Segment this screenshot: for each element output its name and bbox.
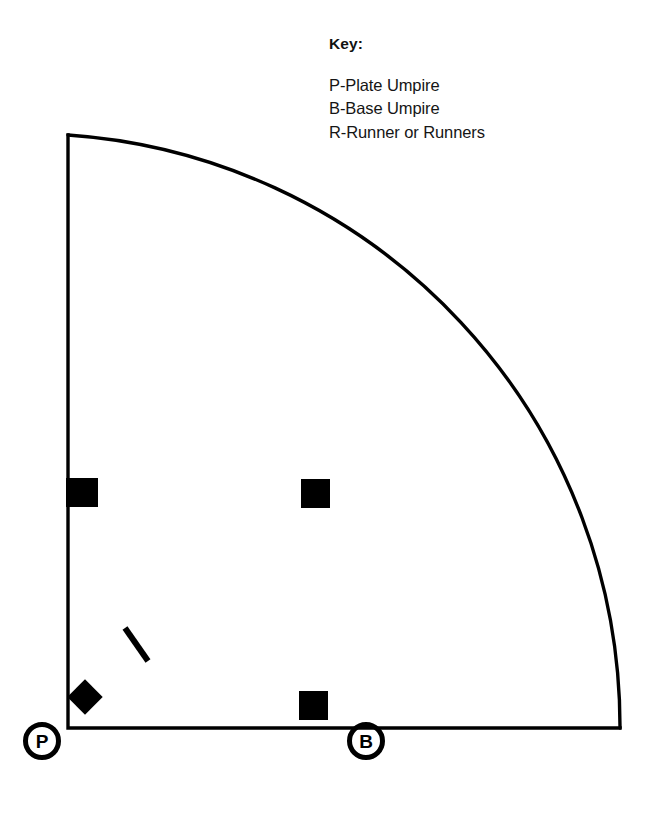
second-base-marker: [301, 479, 330, 508]
key-entry-base-umpire: B-Base Umpire: [329, 97, 579, 121]
key-entry-list: P-Plate Umpire B-Base Umpire R-Runner or…: [329, 74, 579, 145]
base-umpire-letter: B: [359, 731, 373, 752]
plate-umpire-letter: P: [36, 731, 49, 752]
first-base-marker: [299, 691, 328, 720]
plate-umpire-badge: P: [26, 725, 59, 758]
key-title: Key:: [329, 36, 579, 52]
key-entry-runner: R-Runner or Runners: [329, 121, 579, 145]
third-base-marker: [66, 478, 98, 507]
key-legend: Key: P-Plate Umpire B-Base Umpire R-Runn…: [329, 36, 579, 144]
pitcher-position-mark: [125, 628, 148, 661]
home-plate-marker: [67, 679, 102, 714]
key-entry-plate-umpire: P-Plate Umpire: [329, 74, 579, 98]
outfield-fence-arc: [68, 135, 620, 728]
